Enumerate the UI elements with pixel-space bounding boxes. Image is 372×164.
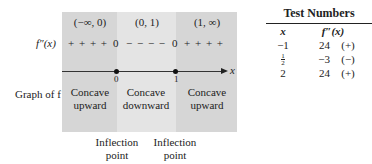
inflection-label-2: Inflection point: [150, 136, 200, 162]
x-axis-label: x: [230, 64, 235, 76]
interval-label-2: (0, 1): [117, 16, 177, 28]
concavity-1-line2: upward: [66, 99, 114, 112]
x-axis-line: [62, 71, 222, 72]
concavity-2: Concave downward: [118, 86, 174, 112]
sign-row-3: + + + +: [184, 37, 224, 49]
cell-value: −3: [300, 53, 330, 65]
interval-label-3: (1, ∞): [177, 16, 237, 28]
cell-x: −1: [266, 39, 300, 51]
zero-marker-2: 0: [172, 37, 179, 49]
zero-marker-1: 0: [113, 37, 120, 49]
second-derivative-label: f″(x): [36, 37, 56, 49]
sign-row-1: + + + +: [68, 37, 108, 49]
inflection-2-line2: point: [150, 149, 200, 162]
inflection-label-1: Inflection point: [92, 136, 142, 162]
inflection-1-line1: Inflection: [92, 136, 142, 149]
table-title: Test Numbers: [266, 6, 372, 24]
header-second-derivative: f″(x): [300, 25, 366, 37]
graph-of-f-label: Graph of f: [15, 88, 61, 100]
table-row: −1 24 (+): [266, 38, 372, 52]
concavity-2-line1: Concave: [118, 86, 174, 99]
cell-sign: (+): [330, 39, 366, 51]
inflection-2-line1: Inflection: [150, 136, 200, 149]
concavity-1-line1: Concave: [66, 86, 114, 99]
table-row: 1 2 −3 (−): [266, 52, 372, 66]
concavity-1: Concave upward: [66, 86, 114, 112]
concavity-3: Concave upward: [180, 86, 234, 112]
inflection-1-line2: point: [92, 149, 142, 162]
cell-value: 24: [300, 39, 330, 51]
tick-label-1: 1: [174, 74, 179, 84]
interval-label-1: (−∞, 0): [60, 16, 120, 28]
sign-row-2: − − − −: [126, 37, 166, 49]
x-axis-arrow-icon: [221, 68, 228, 74]
test-numbers-table: Test Numbers x f″(x) −1 24 (+) 1 2 −3 (−…: [266, 6, 372, 80]
table-header-row: x f″(x): [266, 24, 372, 38]
fraction-one-half: 1 2: [281, 53, 285, 66]
band-interval-neg-inf-0: [62, 12, 117, 132]
concavity-2-line2: downward: [118, 99, 174, 112]
table-row: 2 24 (+): [266, 66, 372, 80]
cell-value: 24: [300, 67, 330, 79]
concavity-3-line2: upward: [180, 99, 234, 112]
fraction-denominator: 2: [281, 60, 285, 66]
cell-sign: (+): [330, 67, 366, 79]
tick-label-0: 0: [114, 74, 119, 84]
cell-sign: (−): [330, 53, 366, 65]
band-interval-0-1: [117, 12, 176, 132]
header-x: x: [266, 25, 300, 37]
cell-x: 2: [266, 67, 300, 79]
concavity-3-line1: Concave: [180, 86, 234, 99]
cell-x: 1 2: [266, 52, 300, 66]
